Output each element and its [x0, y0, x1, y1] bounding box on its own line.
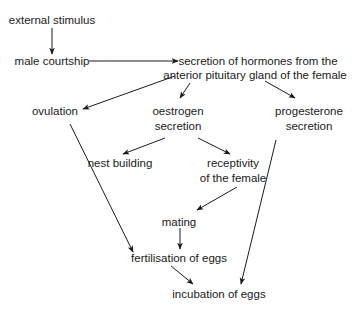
node-incubation: incubation of eggs — [172, 288, 266, 300]
edge-receptivity-to-mating — [197, 187, 237, 210]
svg-text:incubation of eggs: incubation of eggs — [172, 288, 266, 300]
node-progesterone-secretion: progesterone secretion — [275, 105, 343, 132]
node-fertilisation: fertilisation of eggs — [131, 252, 227, 264]
edge-oestrogen-to-nest — [123, 138, 165, 154]
node-receptivity: receptivity of the female — [200, 157, 266, 184]
svg-text:secretion: secretion — [155, 120, 202, 132]
svg-text:male courtship: male courtship — [15, 55, 90, 67]
svg-text:of the female: of the female — [200, 172, 266, 184]
svg-text:receptivity: receptivity — [207, 157, 259, 169]
edge-hormones-to-progesterone — [265, 81, 295, 98]
node-male-courtship: male courtship — [15, 55, 90, 67]
node-nest-building: nest building — [88, 157, 153, 169]
edge-oestrogen-to-receptivity — [198, 138, 230, 154]
svg-text:external stimulus: external stimulus — [9, 14, 96, 26]
node-external-stimulus: external stimulus — [9, 14, 96, 26]
svg-text:progesterone: progesterone — [275, 105, 343, 117]
edge-hormones-to-oestrogen — [180, 83, 190, 98]
node-ovulation: ovulation — [32, 105, 78, 117]
svg-text:secretion of hormones from the: secretion of hormones from the — [178, 55, 337, 67]
svg-text:secretion: secretion — [286, 120, 333, 132]
svg-text:fertilisation of eggs: fertilisation of eggs — [131, 252, 227, 264]
node-mating: mating — [162, 216, 197, 228]
svg-text:anterior pituitary gland of th: anterior pituitary gland of the female — [163, 69, 346, 81]
svg-text:mating: mating — [162, 216, 197, 228]
node-hormone-secretion: secretion of hormones from the anterior … — [163, 55, 346, 81]
flow-diagram: external stimulus male courtship secreti… — [0, 0, 352, 311]
edge-fertilisation-to-incubation — [171, 266, 193, 284]
svg-text:ovulation: ovulation — [32, 105, 78, 117]
svg-text:oestrogen: oestrogen — [152, 105, 203, 117]
node-oestrogen-secretion: oestrogen secretion — [152, 105, 203, 132]
edge-ovulation-to-fertilisation — [70, 124, 133, 252]
svg-text:nest building: nest building — [88, 157, 153, 169]
